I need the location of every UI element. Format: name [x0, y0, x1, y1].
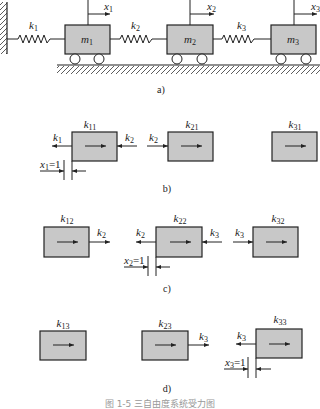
block-k12: k12 [44, 212, 89, 257]
svg-text:k23: k23 [159, 317, 172, 331]
panel-b: k11 k1 k2 x1=1 k21 k2 k31 b) [39, 118, 317, 195]
block-k33: k33 [256, 313, 302, 358]
label-x1: x1 [103, 0, 113, 14]
svg-text:k12: k12 [61, 212, 74, 226]
block-k22: k22 [156, 212, 202, 257]
label-k1: k1 [29, 19, 38, 33]
spring-k3 [213, 35, 271, 43]
svg-text:k21: k21 [186, 118, 199, 132]
svg-text:k13: k13 [57, 317, 70, 331]
svg-text:k2: k2 [125, 131, 134, 145]
unit-displacement-x3: x3=1 [224, 356, 271, 378]
svg-text:x2=1: x2=1 [123, 254, 145, 268]
svg-text:x1=1: x1=1 [39, 158, 61, 172]
svg-text:k3: k3 [199, 330, 208, 344]
caption-a: a) [157, 84, 165, 96]
label-x2: x2 [206, 0, 216, 14]
label-k3: k3 [237, 19, 246, 33]
block-k11: k11 [72, 118, 117, 161]
svg-text:x3=1: x3=1 [224, 356, 246, 370]
svg-text:k22: k22 [174, 212, 187, 226]
mass-m2: m2 x2 [167, 0, 216, 64]
panel-a: k1 k2 k3 m1 x1 m2 x2 m3 [0, 0, 320, 96]
svg-text:k3: k3 [237, 329, 246, 343]
svg-text:k11: k11 [84, 118, 97, 132]
spring-k2 [110, 35, 167, 43]
mass-m3: m3 x3 [271, 0, 320, 64]
panel-d: k13 k23 k3 k33 k3 x3=1 d) [40, 313, 302, 395]
block-k32: k32 [253, 212, 298, 257]
block-k23: k23 [142, 317, 188, 360]
panel-c: k12 k2 k22 k2 k3 x2=1 k32 k3 c) [44, 212, 298, 295]
block-k31: k31 [272, 118, 317, 161]
svg-text:k2: k2 [136, 226, 145, 240]
ground [57, 66, 320, 74]
block-k13: k13 [40, 317, 86, 360]
block-k21: k21 [168, 118, 213, 161]
svg-text:k32: k32 [272, 212, 285, 226]
svg-text:k1: k1 [53, 131, 62, 145]
caption-b: b) [163, 183, 171, 195]
mass-m1: m1 x1 [65, 0, 113, 64]
svg-text:k3: k3 [235, 226, 244, 240]
caption-c: c) [163, 283, 171, 295]
caption-d: d) [163, 383, 171, 395]
svg-text:k33: k33 [274, 313, 287, 327]
label-k2: k2 [131, 19, 140, 33]
wall [0, 2, 7, 54]
svg-text:k2: k2 [97, 226, 106, 240]
svg-text:k3: k3 [210, 226, 219, 240]
figure-caption: 图 1-5 三自由度系统受力图 [105, 398, 215, 409]
spring-k1 [7, 35, 65, 43]
svg-text:k31: k31 [289, 118, 302, 132]
three-dof-diagram: k1 k2 k3 m1 x1 m2 x2 m3 [0, 0, 320, 409]
svg-text:k2: k2 [149, 131, 158, 145]
label-x3: x3 [310, 0, 320, 14]
